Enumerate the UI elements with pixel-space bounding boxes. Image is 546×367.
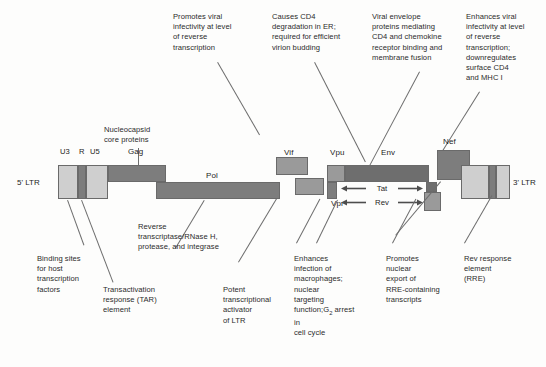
genome-box-pol [156, 182, 280, 199]
genome-box-env [345, 165, 429, 182]
annotation-vpr-function-c: cell cycle [294, 328, 325, 337]
genome-box-u5-3prime [496, 165, 510, 199]
annotation-vpr-function: Enhances infection of macrophages; nucle… [294, 254, 360, 338]
rev-arrow-label: Rev [371, 198, 393, 207]
genome-box-vif [276, 157, 308, 175]
tat-splice-arrow-row: Tat [337, 183, 427, 194]
gene-label-vpu: Vpu [330, 148, 345, 157]
segment-label-u5: U5 [90, 147, 100, 156]
gene-label-env: Env [381, 148, 395, 157]
annotation-vif-function: Promotes viral infectivity at level of r… [173, 12, 261, 53]
gene-label-vif: Vif [284, 148, 294, 157]
annotation-env-function: Viral envelope proteins mediating CD4 an… [372, 12, 466, 63]
gene-label-nef: Nef [443, 137, 456, 146]
gene-label-gag: Gag [128, 147, 143, 156]
genome-box-vpu [327, 165, 345, 182]
ltr-label-3prime: 3' LTR [513, 178, 536, 187]
genome-box-u5 [86, 165, 108, 199]
segment-label-u3: U3 [60, 147, 70, 156]
segment-label-r: R [79, 147, 84, 156]
genome-box-r [78, 165, 86, 199]
annotation-nucleocapsid: Nucleocapsid core proteins [104, 125, 184, 145]
leader-line-vpr [296, 199, 320, 244]
annotation-nef-function: Enhances viral infectivity at level of r… [466, 12, 544, 83]
leader-line-vif [217, 62, 260, 135]
genome-box-u3-3prime [461, 165, 489, 199]
leader-line-vpr-secondary [316, 200, 338, 243]
tat-right-arrow-icon [397, 184, 423, 193]
annotation-tat-function: Potent transcriptional activator of LTR [223, 285, 289, 326]
ltr-label-5prime: 5' LTR [17, 178, 40, 187]
annotation-pol-function: Reverse transcriptase/RNase H, protease,… [138, 222, 248, 253]
annotation-rev-function: Promotes nuclear export of RRE-containin… [386, 254, 462, 305]
hiv-genome-figure: Promotes viral infectivity at level of r… [0, 0, 546, 367]
rev-left-arrow-icon [341, 198, 367, 207]
genome-box-r-3prime [489, 165, 496, 199]
genome-box-tat-exon1 [295, 178, 324, 195]
leader-line-u3 [67, 200, 84, 245]
tat-arrow-label: Tat [371, 184, 393, 193]
annotation-vpu-function: Causes CD4 degradation in ER; required f… [272, 12, 368, 53]
tat-left-arrow-icon [341, 184, 367, 193]
gene-label-pol: Pol [206, 171, 218, 180]
genome-box-u3 [58, 165, 78, 199]
genome-box-gag [108, 165, 166, 182]
annotation-rre-function: Rev response element (RRE) [464, 254, 540, 285]
annotation-u3-function: Binding sites for host transcription fac… [37, 254, 103, 295]
annotation-r-function: Transactivation response (TAR) element [103, 285, 181, 316]
leader-line-rre [464, 195, 492, 243]
genome-box-vpr [327, 182, 337, 199]
